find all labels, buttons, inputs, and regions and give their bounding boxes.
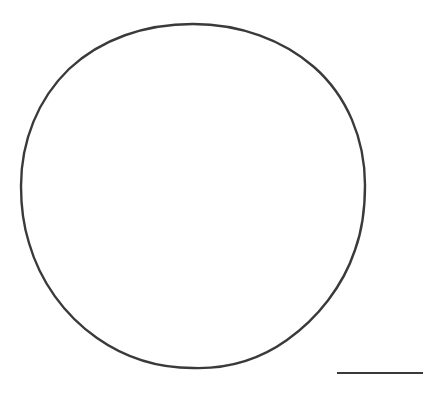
figure-background — [0, 0, 444, 399]
figure-container: circular object outline — [0, 0, 444, 399]
figure-canvas — [0, 0, 444, 399]
